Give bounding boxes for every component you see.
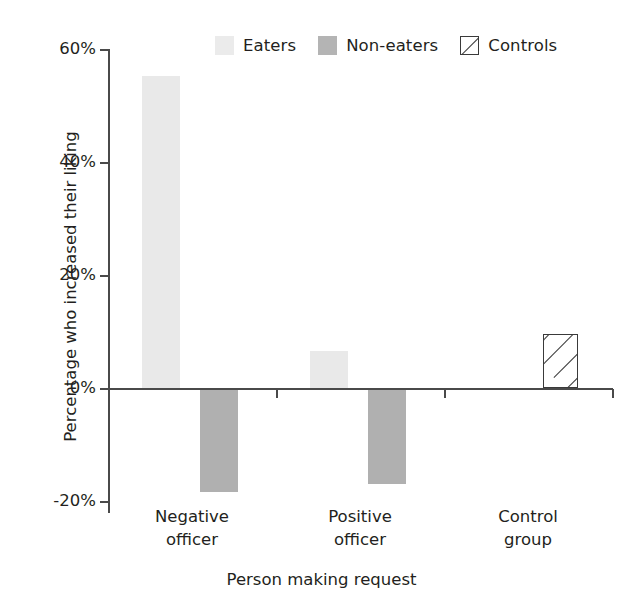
- y-axis-line: [108, 49, 110, 513]
- x-category-line-2: officer: [107, 528, 277, 551]
- bar-chart: Eaters Non-eaters Controls 60% 40% 20% 0…: [0, 0, 643, 616]
- x-tick-sep-1: [276, 389, 278, 398]
- bar-non-eaters-negative-officer: [200, 390, 238, 492]
- y-tick-20: [100, 275, 109, 277]
- x-category-label-positive-officer: Positive officer: [275, 505, 445, 551]
- x-tick-end: [612, 389, 614, 398]
- y-tick-label-60: 60%: [4, 39, 96, 58]
- x-axis-line: [108, 388, 613, 390]
- y-axis-title: Percentage who increased their liking: [61, 77, 80, 497]
- x-category-line-2: group: [443, 528, 613, 551]
- x-tick-start: [108, 389, 110, 398]
- y-tick-60: [100, 49, 109, 51]
- bar-controls-control-group: [543, 334, 578, 388]
- bar-eaters-negative-officer: [142, 76, 180, 388]
- x-category-label-control-group: Control group: [443, 505, 613, 551]
- x-category-line-2: officer: [275, 528, 445, 551]
- y-tick-label-20: 20%: [4, 265, 96, 284]
- y-tick-neg20: [100, 501, 109, 503]
- x-category-line-1: Control: [443, 505, 613, 528]
- y-tick-label-40: 40%: [4, 152, 96, 171]
- x-category-label-negative-officer: Negative officer: [107, 505, 277, 551]
- plot-area: 60% 40% 20% 0% -20% Percentage who incre…: [0, 0, 643, 616]
- bar-non-eaters-positive-officer: [368, 390, 406, 484]
- x-category-line-1: Positive: [275, 505, 445, 528]
- x-category-line-1: Negative: [107, 505, 277, 528]
- hatch-stripe: [543, 334, 578, 354]
- hatch-stripe: [543, 334, 578, 366]
- y-tick-label-0: 0%: [4, 378, 96, 397]
- x-axis-title: Person making request: [0, 570, 643, 589]
- bar-eaters-positive-officer: [310, 351, 348, 388]
- x-tick-sep-2: [444, 389, 446, 398]
- y-tick-label-neg-20: -20%: [4, 491, 96, 510]
- y-axis-tick-labels: 60% 40% 20% 0% -20%: [0, 0, 96, 616]
- y-tick-40: [100, 162, 109, 164]
